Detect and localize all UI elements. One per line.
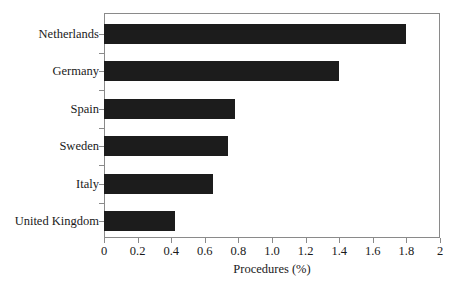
x-axis-tick [440, 238, 441, 243]
y-axis-tick [99, 146, 104, 147]
x-axis-tick [339, 238, 340, 243]
x-axis-tick [306, 238, 307, 243]
y-axis-tick [99, 165, 104, 166]
y-axis-tick [99, 90, 104, 91]
cropped-caption-sliver [18, 0, 448, 5]
x-axis-tick [373, 238, 374, 243]
x-axis-tick-label: 2 [420, 244, 458, 259]
category-label: United Kingdom [0, 211, 99, 231]
category-label: Netherlands [0, 24, 99, 44]
x-axis-tick [205, 238, 206, 243]
bar [104, 211, 175, 231]
bar-chart-figure: NetherlandsGermanySpainSwedenItalyUnited… [0, 0, 458, 285]
y-axis-tick [99, 71, 104, 72]
x-axis-tick [104, 238, 105, 243]
category-label: Spain [0, 99, 99, 119]
y-axis-tick [99, 221, 104, 222]
category-axis-labels: NetherlandsGermanySpainSwedenItalyUnited… [0, 13, 99, 238]
x-axis-tick [171, 238, 172, 243]
bar [104, 99, 235, 119]
bar [104, 174, 213, 194]
x-axis-tick [272, 238, 273, 243]
y-axis-tick [99, 109, 104, 110]
bar [104, 24, 406, 44]
x-axis-tick [406, 238, 407, 243]
bar [104, 61, 339, 81]
x-axis-title: Procedures (%) [104, 262, 440, 277]
y-axis-tick [99, 203, 104, 204]
y-axis-tick [99, 184, 104, 185]
y-axis-tick [99, 128, 104, 129]
y-axis-tick [99, 34, 104, 35]
bars-layer [104, 13, 440, 238]
y-axis-tick [99, 53, 104, 54]
x-axis-tick [138, 238, 139, 243]
category-label: Germany [0, 61, 99, 81]
category-label: Sweden [0, 136, 99, 156]
category-label: Italy [0, 174, 99, 194]
x-axis-tick [238, 238, 239, 243]
bar [104, 136, 228, 156]
